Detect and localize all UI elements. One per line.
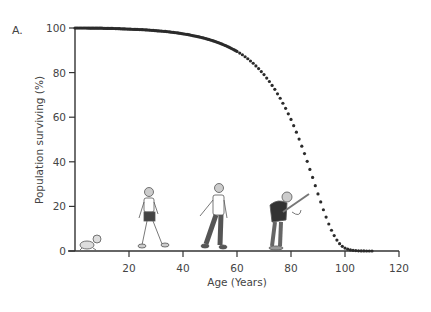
data-point	[327, 222, 330, 225]
data-point	[265, 76, 268, 79]
data-point	[287, 112, 290, 115]
data-point	[276, 92, 279, 95]
data-point	[335, 238, 338, 241]
x-tick-label: 40	[176, 262, 189, 274]
data-point	[330, 229, 333, 232]
data-point	[281, 102, 284, 105]
data-point	[254, 64, 257, 67]
data-point	[298, 137, 301, 140]
data-point	[244, 55, 247, 58]
panel-label: A.	[12, 24, 23, 37]
data-point	[333, 234, 336, 237]
y-tick-label: 80	[53, 67, 66, 79]
data-point	[241, 53, 244, 56]
data-point	[257, 67, 260, 70]
x-tick-label: 120	[389, 262, 409, 274]
y-tick-label: 40	[53, 156, 66, 168]
data-point	[262, 73, 265, 76]
x-tick-label: 20	[122, 262, 135, 274]
data-point	[306, 160, 309, 163]
y-tick-label: 60	[53, 111, 66, 123]
data-point	[349, 248, 352, 251]
data-point	[252, 62, 255, 65]
data-point	[316, 192, 319, 195]
data-point	[300, 145, 303, 148]
walking-adult-illustration	[200, 184, 227, 250]
data-point	[319, 200, 322, 203]
data-point	[235, 50, 238, 53]
data-point	[271, 84, 274, 87]
data-point	[322, 208, 325, 211]
data-point	[370, 249, 373, 252]
x-axis-label: Age (Years)	[207, 276, 267, 288]
data-point	[268, 80, 271, 83]
y-tick-label: 20	[53, 200, 66, 212]
x-ticks: 20406080100120	[122, 251, 409, 274]
survival-chart: A. 020406080100 20406080100120 Populatio…	[0, 0, 431, 312]
walking-child-illustration	[138, 188, 169, 249]
data-point	[308, 168, 311, 171]
y-axis-label: Population surviving (%)	[33, 76, 45, 204]
data-point	[314, 184, 317, 187]
y-tick-label: 0	[59, 245, 66, 257]
data-point	[303, 152, 306, 155]
data-point	[273, 88, 276, 91]
data-point	[284, 107, 287, 110]
data-point	[260, 70, 263, 73]
x-tick-label: 60	[230, 262, 243, 274]
data-point	[289, 118, 292, 121]
x-tick-label: 80	[284, 262, 297, 274]
y-tick-label: 100	[46, 22, 66, 34]
crawling-baby-illustration	[80, 235, 101, 250]
x-tick-label: 100	[335, 262, 355, 274]
data-point	[341, 245, 344, 248]
data-point	[246, 57, 249, 60]
data-point	[238, 51, 241, 54]
data-point	[338, 242, 341, 245]
data-points	[73, 26, 373, 252]
y-ticks: 020406080100	[46, 22, 75, 257]
data-point	[311, 176, 314, 179]
elderly-with-cane-illustration	[269, 192, 309, 250]
data-point	[325, 216, 328, 219]
data-point	[249, 59, 252, 62]
data-point	[279, 97, 282, 100]
data-point	[295, 131, 298, 134]
data-point	[346, 248, 349, 251]
data-point	[292, 124, 295, 127]
